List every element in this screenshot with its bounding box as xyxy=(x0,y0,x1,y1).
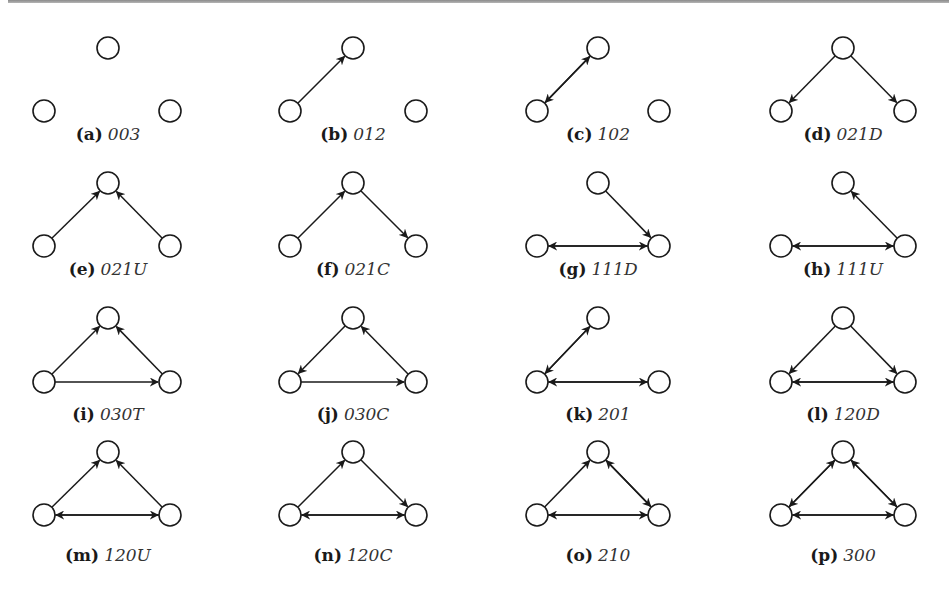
triad-panel-120c xyxy=(279,441,427,526)
node-T xyxy=(97,441,119,463)
caption-triad-code: 012 xyxy=(353,124,385,144)
node-T xyxy=(342,172,364,194)
triad-panel-210 xyxy=(526,441,670,526)
edge-arrow-T-to-R xyxy=(361,460,408,507)
edge-arrow-L-to-T xyxy=(298,460,345,507)
triad-panel-120d xyxy=(770,307,916,393)
edge-arrow-R-to-T xyxy=(116,327,162,374)
caption-triad-code: 021C xyxy=(344,259,389,279)
node-R xyxy=(648,100,670,122)
node-R xyxy=(894,235,916,257)
node-T xyxy=(587,172,609,194)
triad-panel-120u xyxy=(33,441,181,526)
triad-panel-030t xyxy=(33,307,181,393)
panel-caption: (k)201 xyxy=(565,404,630,424)
node-R xyxy=(159,504,181,526)
caption-letter: (j) xyxy=(317,404,339,424)
triad-panel-021d xyxy=(770,37,916,122)
node-L xyxy=(526,504,548,526)
edge-arrow-L-to-T xyxy=(52,191,100,238)
triad-diagram xyxy=(0,0,949,595)
node-R xyxy=(894,504,916,526)
edge-arrow-T-to-L xyxy=(545,56,590,102)
edge-arrow-L-to-T xyxy=(298,191,345,238)
node-T xyxy=(97,37,119,59)
node-R xyxy=(159,100,181,122)
caption-triad-code: 111U xyxy=(836,259,883,279)
edge-arrow-T-to-R xyxy=(851,56,897,103)
caption-triad-code: 021U xyxy=(101,259,148,279)
node-R xyxy=(648,371,670,393)
caption-letter: (e) xyxy=(69,259,96,279)
edge-arrow-L-to-T xyxy=(298,56,345,103)
edge-arrow-T-to-L xyxy=(789,460,835,507)
caption-letter: (h) xyxy=(803,259,831,279)
panel-caption: (p)300 xyxy=(810,545,875,565)
edge-arrow-L-to-T xyxy=(52,326,100,374)
node-T xyxy=(832,441,854,463)
caption-letter: (m) xyxy=(65,545,99,565)
edge-arrow-R-to-T xyxy=(851,192,897,239)
edge-arrow-R-to-T xyxy=(361,327,408,375)
panel-caption: (f)021C xyxy=(316,259,390,279)
node-T xyxy=(342,441,364,463)
panel-caption: (n)120C xyxy=(314,545,393,565)
edge-arrow-R-to-T xyxy=(116,192,162,239)
node-L xyxy=(33,371,55,393)
caption-triad-code: 210 xyxy=(598,545,630,565)
node-T xyxy=(342,307,364,329)
node-L xyxy=(526,235,548,257)
node-L xyxy=(526,371,548,393)
triad-panel-111u xyxy=(770,172,916,257)
panel-caption: (d)021D xyxy=(803,124,882,144)
node-T xyxy=(587,441,609,463)
edge-arrow-L-to-T xyxy=(545,461,590,507)
node-L xyxy=(770,371,792,393)
node-R xyxy=(648,504,670,526)
node-T xyxy=(587,37,609,59)
node-R xyxy=(405,371,427,393)
triad-panel-021c xyxy=(279,172,427,257)
edge-arrow-T-to-R xyxy=(606,191,651,237)
node-R xyxy=(648,235,670,257)
node-R xyxy=(159,235,181,257)
caption-letter: (c) xyxy=(566,124,592,144)
node-L xyxy=(770,504,792,526)
panel-caption: (i)030T xyxy=(72,404,143,424)
panel-caption: (m)120U xyxy=(65,545,151,565)
edge-arrow-R-to-T xyxy=(606,461,651,507)
caption-triad-code: 120C xyxy=(347,545,392,565)
caption-triad-code: 021D xyxy=(836,124,882,144)
node-T xyxy=(832,172,854,194)
panel-caption: (o)210 xyxy=(566,545,631,565)
panel-caption: (h)111U xyxy=(803,259,883,279)
caption-triad-code: 120D xyxy=(834,404,880,424)
panel-caption: (b)012 xyxy=(320,124,385,144)
node-L xyxy=(526,100,548,122)
node-L xyxy=(279,235,301,257)
node-T xyxy=(342,37,364,59)
panel-caption: (j)030C xyxy=(317,404,390,424)
caption-letter: (p) xyxy=(810,545,838,565)
triad-panel-030c xyxy=(279,307,427,393)
node-L xyxy=(279,504,301,526)
node-R xyxy=(894,100,916,122)
edge-arrow-R-to-T xyxy=(851,461,897,508)
node-T xyxy=(587,307,609,329)
caption-letter: (l) xyxy=(806,404,829,424)
caption-letter: (g) xyxy=(558,259,586,279)
caption-letter: (a) xyxy=(76,124,103,144)
caption-letter: (d) xyxy=(803,124,831,144)
caption-triad-code: 003 xyxy=(108,124,140,144)
triad-panel-003 xyxy=(33,37,181,122)
caption-letter: (k) xyxy=(565,404,593,424)
panel-caption: (e)021U xyxy=(69,259,148,279)
node-T xyxy=(832,307,854,329)
caption-letter: (f) xyxy=(316,259,339,279)
triad-panel-201 xyxy=(526,307,670,393)
node-L xyxy=(33,235,55,257)
node-L xyxy=(33,100,55,122)
caption-letter: (n) xyxy=(314,545,342,565)
edge-arrow-T-to-L xyxy=(298,326,345,374)
caption-letter: (o) xyxy=(566,545,593,565)
